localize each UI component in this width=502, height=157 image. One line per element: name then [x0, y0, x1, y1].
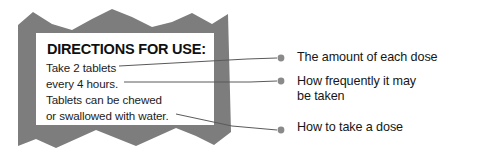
leader-dot-dose-amount — [278, 55, 285, 62]
label-body-line-1: Take 2 tablets — [46, 61, 116, 74]
annotation-dose-frequency: How frequently it may be taken — [297, 74, 416, 104]
label-heading: DIRECTIONS FOR USE: — [47, 41, 206, 57]
leader-dot-dose-method — [278, 127, 285, 134]
label-body-line-4: or swallowed with water. — [46, 109, 169, 122]
annotated-label-figure: DIRECTIONS FOR USE: Take 2 tablets every… — [0, 0, 502, 157]
label-body-line-2: every 4 hours. — [46, 77, 118, 90]
leader-dot-dose-frequency — [278, 78, 285, 85]
annotation-dose-amount: The amount of each dose — [297, 50, 438, 65]
annotation-dose-method: How to take a dose — [297, 120, 403, 135]
label-body-line-3: Tablets can be chewed — [46, 93, 162, 106]
